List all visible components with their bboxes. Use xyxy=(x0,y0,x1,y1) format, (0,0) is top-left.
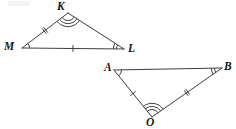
triangle-ABO-angle-O-arc-1 xyxy=(147,110,158,113)
marks-layer xyxy=(28,17,216,113)
vertex-label-L: L xyxy=(128,43,135,55)
triangle-ABO-angle-B-arc-2 xyxy=(211,68,213,74)
triangle-KML-angle-L-arc-1 xyxy=(117,45,118,49)
triangle-KML-angle-M-arc-1 xyxy=(28,43,30,48)
triangles-layer xyxy=(22,13,222,117)
triangle-KML-side-MK xyxy=(22,13,68,48)
vertex-label-B: B xyxy=(224,61,232,73)
triangle-ABO-angle-O-arc-2 xyxy=(145,106,160,111)
vertex-label-K: K xyxy=(57,1,65,13)
triangle-ABO-side-AB xyxy=(114,68,222,70)
triangle-ABO-angle-B-arc-1 xyxy=(215,68,216,72)
triangle-ABO-angle-A xyxy=(119,70,122,76)
triangle-ABO-side-OB xyxy=(152,68,222,117)
triangle-KML-angle-K-arc-1 xyxy=(62,17,74,20)
triangle-KML-angle-M xyxy=(28,43,30,48)
triangle-ABO-angle-A-arc-1 xyxy=(119,70,122,76)
triangle-KML-angle-K-arc-2 xyxy=(60,19,77,24)
geometry-svg xyxy=(0,0,236,129)
geometry-figure-canvas: KMLABO xyxy=(0,0,236,129)
triangle-KML-side-KL xyxy=(68,13,124,49)
vertex-label-A: A xyxy=(104,62,112,74)
vertex-label-M: M xyxy=(4,41,14,53)
triangle-KML-angle-L-arc-2 xyxy=(113,43,115,49)
vertex-label-O: O xyxy=(146,117,154,129)
